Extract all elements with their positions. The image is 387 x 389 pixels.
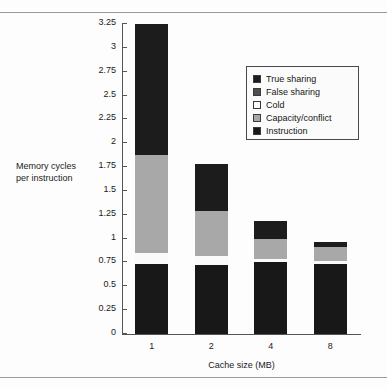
page-rule-top <box>0 12 387 13</box>
y-tick-label: 2 <box>60 136 116 146</box>
legend-item: True sharing <box>253 72 354 85</box>
bar-segment-cold <box>314 261 347 265</box>
y-tick-label: 1 <box>60 232 116 242</box>
bar-segment-cold <box>195 256 228 266</box>
bar-segment-instruction <box>314 264 347 334</box>
chart-legend: True sharingFalse sharingColdCapacity/co… <box>246 66 359 140</box>
y-tick-label: 0 <box>60 327 116 337</box>
bar-segment-capacity-conflict <box>135 155 168 253</box>
y-tick-label: 2.25 <box>60 112 116 122</box>
y-tick-label: 2.5 <box>60 89 116 99</box>
legend-item: Capacity/conflict <box>253 111 354 124</box>
y-tick-label: 1.5 <box>60 184 116 194</box>
bar-segment-instruction <box>195 265 228 334</box>
swatch-capacity-conflict-icon <box>253 114 261 122</box>
y-tick-label: 1.75 <box>60 160 116 170</box>
legend-item-label: Capacity/conflict <box>266 113 332 123</box>
bar-1mb <box>135 24 168 334</box>
x-tick-label-8: 8 <box>310 341 350 352</box>
x-axis-line <box>122 334 361 335</box>
bar-segment-true-sharing <box>135 24 168 155</box>
bar-segment-true-sharing <box>314 242 347 247</box>
legend-item: Instruction <box>253 124 354 137</box>
bar-segment-capacity-conflict <box>254 239 287 259</box>
bar-segment-capacity-conflict <box>314 247 347 260</box>
page-rule-bottom <box>0 377 387 378</box>
swatch-instruction-icon <box>253 127 261 135</box>
legend-item-label: True sharing <box>266 74 316 84</box>
swatch-false-sharing-icon <box>253 88 261 96</box>
legend-item-label: False sharing <box>266 87 320 97</box>
y-tick-label: 3 <box>60 41 116 51</box>
bar-segment-cold <box>254 259 287 263</box>
bar-segment-true-sharing <box>195 164 228 211</box>
x-tick-label-1: 1 <box>132 341 172 352</box>
swatch-cold-icon <box>253 101 261 109</box>
bar-segment-instruction <box>135 264 168 334</box>
bar-2mb <box>195 24 228 334</box>
bar-segment-cold <box>135 253 168 264</box>
bar-segment-instruction <box>254 262 287 334</box>
x-axis-title: Cache size (MB) <box>122 360 361 370</box>
bar-segment-capacity-conflict <box>195 211 228 256</box>
legend-item: False sharing <box>253 85 354 98</box>
y-tick-label: 0.75 <box>60 255 116 265</box>
bar-segment-true-sharing <box>254 221 287 238</box>
swatch-true-sharing-icon <box>253 75 261 83</box>
legend-item: Cold <box>253 98 354 111</box>
y-axis-title-line2: per instruction <box>16 172 114 184</box>
y-tick-label: 0.25 <box>60 303 116 313</box>
legend-item-label: Cold <box>266 100 285 110</box>
y-tick-label: 3.25 <box>60 17 116 27</box>
figure: Memory cycles per instruction 00.250.50.… <box>0 0 387 389</box>
y-tick-label: 0.5 <box>60 279 116 289</box>
x-tick-label-2: 2 <box>191 341 231 352</box>
x-tick-label-4: 4 <box>251 341 291 352</box>
y-tick-label: 1.25 <box>60 208 116 218</box>
legend-item-label: Instruction <box>266 126 308 136</box>
y-tick-label: 2.75 <box>60 65 116 75</box>
